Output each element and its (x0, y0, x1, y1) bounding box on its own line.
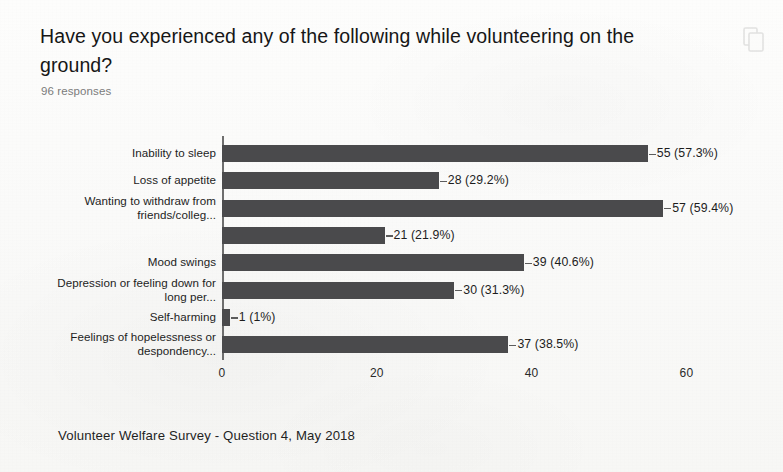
page-title: Have you experienced any of the followin… (40, 22, 680, 80)
chart-y-axis-line (222, 136, 224, 360)
response-count: 96 responses (41, 85, 111, 97)
footer-caption: Volunteer Welfare Survey - Question 4, M… (58, 428, 355, 443)
copy-icon[interactable] (743, 27, 765, 53)
